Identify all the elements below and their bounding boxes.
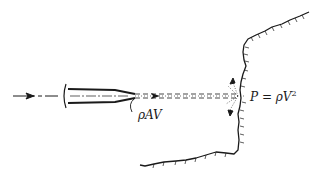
pressure-exponent: 2 [291, 89, 296, 98]
incoming-flow-arrow [13, 93, 58, 99]
water-jet [135, 94, 245, 98]
pressure-label: P = ρV2 [250, 89, 297, 104]
pressure-formula: P = ρV [250, 90, 291, 104]
splash-deflection-arrows [226, 78, 238, 116]
nozzle [64, 84, 135, 108]
mass-flux-label: ρAV [138, 108, 162, 122]
